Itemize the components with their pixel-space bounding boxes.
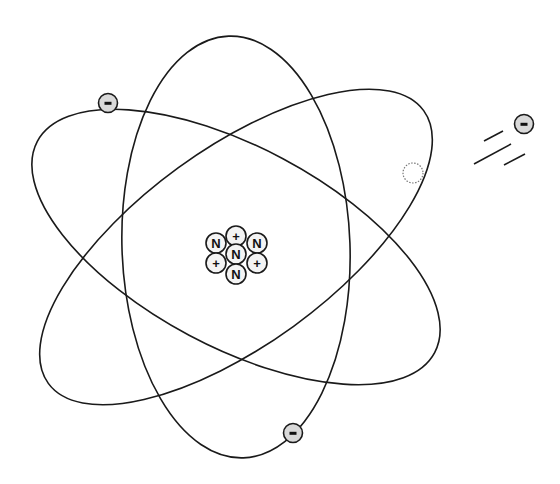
particle-label: N [252, 236, 261, 251]
nucleus: +NNN++N [206, 226, 267, 284]
atom-diagram: +NNN++N [0, 0, 560, 484]
speed-line-bottom [504, 154, 525, 165]
free-electron [515, 115, 534, 134]
electron-upper-left [99, 94, 118, 113]
proton-particle: + [206, 253, 226, 273]
vacancy-circle-icon [403, 163, 423, 183]
neutron-particle: N [247, 233, 267, 253]
speed-line-top [484, 131, 503, 141]
proton-particle: + [247, 253, 267, 273]
minus-icon [105, 102, 112, 105]
neutron-particle: N [226, 244, 246, 264]
neutron-particle: N [206, 233, 226, 253]
neutron-particle: N [226, 264, 246, 284]
particle-label: + [212, 256, 220, 271]
proton-particle: + [226, 226, 246, 246]
particle-label: N [211, 236, 220, 251]
particle-label: N [231, 247, 240, 262]
minus-icon [290, 432, 297, 435]
electron-vacancy [403, 163, 423, 183]
speed-line-middle [474, 144, 511, 164]
electron-bottom [284, 424, 303, 443]
minus-icon [521, 123, 528, 126]
particle-label: + [232, 229, 240, 244]
particle-label: + [253, 256, 261, 271]
free-electron-speed-lines [474, 131, 525, 165]
particle-label: N [231, 267, 240, 282]
electrons [99, 94, 303, 443]
free-electron-particle [515, 115, 534, 134]
